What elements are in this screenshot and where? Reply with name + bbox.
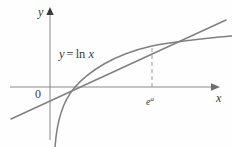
- origin-label: 0: [35, 88, 41, 100]
- equation-lhs: y: [59, 47, 65, 61]
- y-axis: [46, 7, 53, 140]
- equation-operator: =: [65, 47, 76, 61]
- x-axis-label: x: [216, 92, 221, 104]
- y-axis-arrowhead: [46, 7, 53, 15]
- y-axis-label: y: [38, 6, 43, 18]
- figure-canvas: y x 0 y=ln x ea: [0, 0, 232, 147]
- equation-label: y=ln x: [59, 48, 94, 61]
- tangent-x-value-label: ea: [146, 96, 154, 107]
- tangent-line: [11, 20, 226, 119]
- equation-argument: x: [88, 47, 94, 61]
- plot-svg: [0, 0, 232, 147]
- equation-function: ln: [76, 47, 86, 61]
- x-axis: [10, 83, 220, 91]
- euler-exponent: a: [150, 95, 154, 103]
- x-axis-arrowhead: [211, 83, 220, 91]
